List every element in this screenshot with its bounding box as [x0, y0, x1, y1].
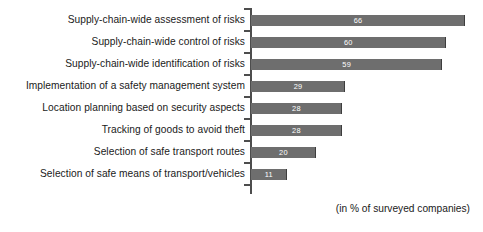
bar-row: Tracking of goods to avoid theft 28 [0, 119, 483, 141]
bar-value-label: 28 [251, 103, 342, 114]
bar-value-label: 29 [251, 81, 345, 92]
bar-row: Selection of safe transport routes 20 [0, 141, 483, 163]
category-label: Selection of safe means of transport/veh… [0, 163, 245, 185]
bar-row: Supply-chain-wide control of risks 60 [0, 31, 483, 53]
bar-row: Supply-chain-wide assessment of risks 66 [0, 9, 483, 31]
bar-row: Selection of safe means of transport/veh… [0, 163, 483, 185]
bar-row: Supply-chain-wide identification of risk… [0, 53, 483, 75]
category-label: Supply-chain-wide identification of risk… [0, 53, 245, 75]
bar-row: Implementation of a safety management sy… [0, 75, 483, 97]
category-label: Location planning based on security aspe… [0, 97, 245, 119]
category-label: Selection of safe transport routes [0, 141, 245, 163]
category-label: Supply-chain-wide control of risks [0, 31, 245, 53]
chart-footnote: (in % of surveyed companies) [336, 203, 470, 214]
bar-value-label: 59 [251, 59, 442, 70]
bar-row: Location planning based on security aspe… [0, 97, 483, 119]
bar-chart: Supply-chain-wide assessment of risks 66… [0, 0, 483, 232]
category-label: Implementation of a safety management sy… [0, 75, 245, 97]
bar-value-label: 20 [251, 147, 316, 158]
category-label: Supply-chain-wide assessment of risks [0, 9, 245, 31]
bar-value-label: 11 [251, 169, 287, 180]
category-label: Tracking of goods to avoid theft [0, 119, 245, 141]
bar-value-label: 66 [251, 15, 465, 26]
bar-value-label: 28 [251, 125, 342, 136]
bar-value-label: 60 [251, 37, 446, 48]
